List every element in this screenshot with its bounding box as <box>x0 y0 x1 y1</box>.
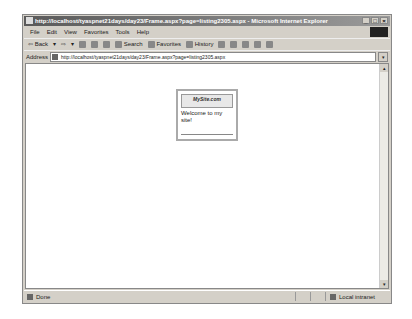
print-icon[interactable] <box>230 41 237 48</box>
window-title: http://localhost/tyaspnet21days/day23/Fr… <box>35 18 328 24</box>
address-label: Address <box>26 54 48 60</box>
menu-edit[interactable]: Edit <box>47 27 57 37</box>
page-icon <box>52 54 58 60</box>
address-input[interactable]: http://localhost/tyaspnet21days/day23/Fr… <box>50 52 376 62</box>
refresh-icon[interactable] <box>91 41 98 48</box>
history-icon <box>186 41 193 48</box>
standard-toolbar: ⇦ Back ▾ ⇨ ▾ Search Favorites History <box>24 38 390 50</box>
close-button[interactable]: × <box>380 17 388 24</box>
history-label: History <box>195 41 214 47</box>
minimize-button[interactable]: _ <box>362 17 370 24</box>
menu-file[interactable]: File <box>30 27 40 37</box>
discuss-icon[interactable] <box>254 41 261 48</box>
scroll-up-button[interactable]: ▴ <box>380 64 388 72</box>
title-bar[interactable]: http://localhost/tyaspnet21days/day23/Fr… <box>24 16 390 26</box>
messenger-icon[interactable] <box>266 41 273 48</box>
search-button[interactable]: Search <box>115 39 143 50</box>
search-icon <box>115 41 122 48</box>
search-label: Search <box>124 41 143 47</box>
welcome-message: Welcome to my site! <box>181 110 233 124</box>
security-zone: Local intranet <box>339 294 375 300</box>
status-bar: Done Local intranet <box>24 290 390 302</box>
stop-icon[interactable] <box>79 41 86 48</box>
status-text: Done <box>36 294 50 300</box>
maximize-button[interactable]: □ <box>371 17 379 24</box>
back-button[interactable]: ⇦ Back <box>28 39 48 50</box>
menu-favorites[interactable]: Favorites <box>84 27 109 37</box>
history-button[interactable]: History <box>186 39 213 50</box>
framed-page: MySite.com Welcome to my site! <box>176 89 238 141</box>
menu-tools[interactable]: Tools <box>116 27 130 37</box>
vertical-scrollbar[interactable]: ▴ ▾ <box>379 64 388 288</box>
edit-icon[interactable] <box>242 41 249 48</box>
forward-button[interactable]: ⇨ <box>61 39 66 50</box>
address-url: http://localhost/tyaspnet21days/day23/Fr… <box>61 54 225 60</box>
menu-bar: File Edit View Favorites Tools Help <box>24 27 390 37</box>
intranet-icon <box>330 294 336 300</box>
menu-view[interactable]: View <box>64 27 77 37</box>
favorites-button[interactable]: Favorites <box>148 39 181 50</box>
browser-window: http://localhost/tyaspnet21days/day23/Fr… <box>22 14 392 304</box>
status-cell <box>295 292 310 301</box>
status-cell <box>310 292 325 301</box>
home-icon[interactable] <box>103 41 110 48</box>
favorites-icon <box>148 41 155 48</box>
forward-dropdown[interactable]: ▾ <box>71 39 74 50</box>
divider <box>181 134 233 135</box>
ie-page-icon <box>26 17 33 24</box>
favorites-label: Favorites <box>156 41 181 47</box>
address-bar: Address http://localhost/tyaspnet21days/… <box>24 50 390 62</box>
page-content: MySite.com Welcome to my site! ▴ ▾ <box>25 63 389 289</box>
page-done-icon <box>27 294 33 300</box>
windows-logo-icon <box>370 27 388 37</box>
back-dropdown[interactable]: ▾ <box>53 39 56 50</box>
site-banner: MySite.com <box>181 94 233 108</box>
scroll-down-button[interactable]: ▾ <box>380 280 388 288</box>
mail-icon[interactable] <box>218 41 225 48</box>
menu-help[interactable]: Help <box>137 27 149 37</box>
address-dropdown[interactable]: ▾ <box>378 52 388 62</box>
